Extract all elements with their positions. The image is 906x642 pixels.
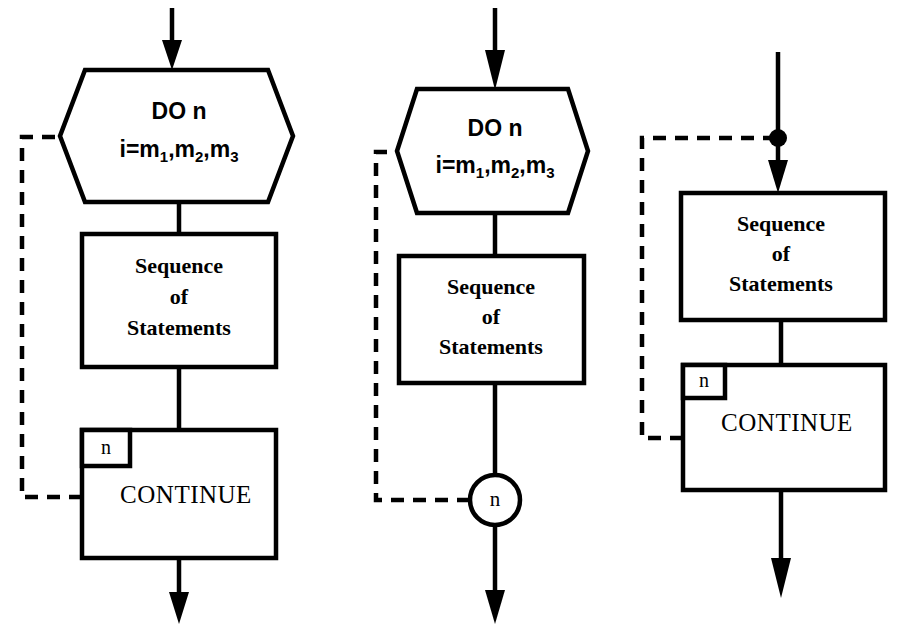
entry-arrow-icon <box>162 40 182 70</box>
junction-to-box-arrow-icon <box>768 160 788 193</box>
do-hexagon-sep2: ,m <box>203 136 230 162</box>
flowchart-svg: DO n i=m1,m2,m3 Sequence of Statements n… <box>0 0 906 642</box>
exit-arrow-icon-3 <box>771 558 791 598</box>
do-hexagon-2-var: i=m <box>436 152 476 178</box>
exit-arrow-icon <box>169 592 189 624</box>
diagram-do-circle-connector: DO n i=m1,m2,m3 Sequence of Statements n <box>376 8 588 624</box>
flowchart-figure: DO n i=m1,m2,m3 Sequence of Statements n… <box>0 0 906 642</box>
do-hexagon-sep1: ,m <box>168 136 195 162</box>
do-hexagon-2-sub3: 3 <box>546 164 554 181</box>
continue-box-label-3: CONTINUE <box>721 409 853 436</box>
do-hexagon-line2: i=m1,m2,m3 <box>120 136 239 165</box>
exit-arrow-icon-2 <box>485 590 505 624</box>
continue-box-label: CONTINUE <box>120 481 252 508</box>
sequence-box-3-line3: Statements <box>729 271 833 296</box>
sequence-box-line3: Statements <box>127 315 231 340</box>
entry-arrow-icon-2 <box>485 50 505 90</box>
do-hexagon-2-sep1: ,m <box>484 152 511 178</box>
do-hexagon-line1: DO n <box>152 98 207 124</box>
sequence-box-line1: Sequence <box>135 253 223 278</box>
do-hexagon-2-sub1: 1 <box>476 164 484 181</box>
sequence-box-2-line1: Sequence <box>447 274 535 299</box>
do-hexagon-sub2: 2 <box>195 148 203 165</box>
sequence-box-line2: of <box>170 284 189 309</box>
do-hexagon-2-sub2: 2 <box>511 164 519 181</box>
do-hexagon-2-line1: DO n <box>468 115 523 141</box>
connector-circle-label: n <box>490 487 501 511</box>
do-hexagon-sub3: 3 <box>230 148 238 165</box>
sequence-box-3-line2: of <box>772 241 791 266</box>
do-hexagon-2-sep2: ,m <box>519 152 546 178</box>
continue-tag-number: n <box>101 436 111 458</box>
continue-tag-number-3: n <box>699 369 709 391</box>
do-hexagon-2-line2: i=m1,m2,m3 <box>436 152 555 181</box>
do-hexagon-var: i=m <box>120 136 160 162</box>
sequence-box-3-line1: Sequence <box>737 211 825 236</box>
sequence-box-2-line2: of <box>482 304 501 329</box>
diagram-do-continue-hexagon: DO n i=m1,m2,m3 Sequence of Statements n… <box>22 8 293 624</box>
do-hexagon-2 <box>397 89 588 213</box>
do-hexagon-sub1: 1 <box>160 148 168 165</box>
diagram-junction-continue: Sequence of Statements n CONTINUE <box>642 52 885 598</box>
sequence-box-2-line3: Statements <box>439 334 543 359</box>
loop-feedback-line <box>22 137 82 497</box>
